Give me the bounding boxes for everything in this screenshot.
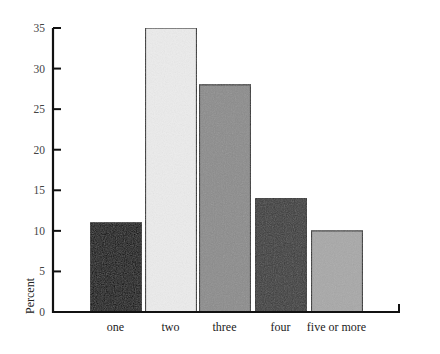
bar-four	[256, 198, 307, 312]
bar-chart: 05101520253035 onetwothreefourfive or mo…	[0, 0, 440, 354]
bar-three	[200, 85, 251, 312]
y-tick-label: 10	[34, 225, 46, 237]
x-tick-label: one	[107, 320, 124, 334]
y-tick-label: 15	[34, 184, 46, 196]
y-tick-label: 5	[39, 265, 45, 277]
x-tick-label: three	[213, 320, 237, 334]
x-tick-label: four	[271, 320, 291, 334]
bar-one	[91, 223, 142, 312]
y-tick-label: 35	[34, 22, 46, 34]
y-axis-label: Percent	[23, 277, 37, 314]
bar-five-or-more	[312, 231, 363, 312]
y-axis: 05101520253035	[34, 22, 62, 318]
x-tick-label: five or more	[307, 320, 366, 334]
y-tick-label: 20	[34, 144, 46, 156]
y-tick-label: 25	[34, 103, 46, 115]
x-tick-label: two	[162, 320, 180, 334]
bars-group	[91, 28, 363, 312]
y-tick-label: 0	[39, 306, 45, 318]
bar-two	[146, 28, 197, 312]
y-tick-label: 30	[34, 63, 46, 75]
